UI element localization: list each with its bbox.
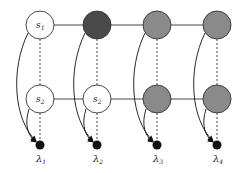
lambda-label-1: λ1 <box>35 153 46 165</box>
lambda-dot-4 <box>213 141 222 150</box>
arrow-bottom-lambda-3 <box>144 109 153 142</box>
lambda-dot-2 <box>93 141 102 150</box>
arrow-bottom-lambda-4 <box>204 109 213 142</box>
lambda-dot-3 <box>153 141 162 150</box>
node-top-2-dark <box>83 11 111 39</box>
arrow-bottom-lambda-1 <box>27 109 36 142</box>
node-bottom-3-gray <box>143 85 171 113</box>
lambda-label-3: λ3 <box>152 153 163 165</box>
lambda-dot-1 <box>36 141 45 150</box>
node-top-4-gray <box>203 11 231 39</box>
lambda-dots <box>36 141 222 150</box>
node-bottom-4-gray <box>203 85 231 113</box>
arrow-bottom-lambda-2 <box>84 109 93 142</box>
graphical-model-diagram: s1 s2 s2 λ1 λ2 λ3 λ4 <box>0 0 246 173</box>
chain-edges <box>54 25 203 99</box>
node-top-3-gray <box>143 11 171 39</box>
dashed-links <box>40 39 217 139</box>
lambda-label-4: λ4 <box>212 153 223 165</box>
lambda-label-2: λ2 <box>92 153 103 165</box>
